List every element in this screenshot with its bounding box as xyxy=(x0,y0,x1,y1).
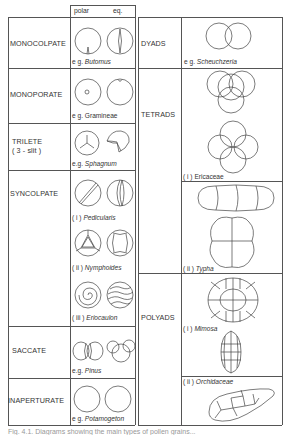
monoporate-eq-icon xyxy=(106,78,134,106)
example-nymphoides: ( ii ) Nymphoides xyxy=(72,264,122,271)
pedicularis-polar-icon xyxy=(74,179,102,207)
eriocaulon-eq-icon xyxy=(106,281,134,309)
example-dyads: e g. Scheuchzeria xyxy=(184,58,237,65)
figure-caption: Fig. 4.1. Diagrams showing the main type… xyxy=(8,428,196,435)
type-label-saccate: SACCATE xyxy=(12,346,46,355)
type-label-tetrads: TETRADS xyxy=(141,110,175,119)
inaperturate-polar-icon xyxy=(73,385,101,413)
example-monoporate: e g. Gramineae xyxy=(72,112,117,119)
type-label-trilete-sub: ( 3 - slit ) xyxy=(12,146,41,155)
saccate-polar-icon xyxy=(72,340,104,362)
mimosa-polyad-side-icon xyxy=(219,330,243,374)
example-mimosa: ( i ) Mimosa xyxy=(183,325,217,332)
ericaceae-tetrad-cross-icon xyxy=(207,119,259,175)
trilete-polar-icon xyxy=(74,130,100,156)
pedicularis-eq-icon xyxy=(106,179,134,207)
header-eq: eq. xyxy=(113,7,122,14)
example-eriocaulon: ( iii ) Eriocaulon xyxy=(72,314,117,321)
example-typha: ( ii ) Typha xyxy=(183,265,214,272)
type-label-dyads: DYADS xyxy=(141,39,166,48)
example-pedicularis: ( i ) Pedicularis xyxy=(72,214,116,221)
example-saccate: e.g. Pinus xyxy=(72,367,101,374)
dyad-icon xyxy=(205,22,253,50)
typha-linear-tetrad-icon xyxy=(196,184,276,212)
ericaceae-tetrad-tetrahedral-icon xyxy=(206,70,256,114)
header-polar: polar xyxy=(74,7,89,14)
monocolpate-polar-icon xyxy=(74,27,102,55)
example-inaperturate: e g. Potamogeton xyxy=(72,415,124,422)
type-label-inaperturate: INAPERTURATE xyxy=(8,396,64,405)
type-label-trilete: TRILETE xyxy=(12,137,42,146)
nymphoides-polar-icon xyxy=(74,229,102,257)
trilete-eq-icon xyxy=(104,129,132,155)
orchidaceae-pollinium-icon xyxy=(207,386,277,422)
example-orchidaceae: ( ii ) Orchidaceae xyxy=(183,378,233,385)
type-label-polyads: POLYADS xyxy=(141,313,175,322)
type-label-syncolpate: SYNCOLPATE xyxy=(10,189,58,198)
monocolpate-eq-icon xyxy=(106,27,134,55)
type-label-monoporate: MONOPORATE xyxy=(10,90,62,99)
typha-square-tetrad-icon xyxy=(206,215,258,271)
monoporate-polar-icon xyxy=(74,78,102,106)
example-trilete: e.g. Sphagnum xyxy=(72,160,117,167)
nymphoides-eq-icon xyxy=(106,229,134,257)
example-ericaceae: ( i ) Ericaceae xyxy=(183,173,224,180)
saccate-eq-icon xyxy=(106,336,136,364)
example-monocolpate: e g. Butomus xyxy=(72,58,111,65)
mimosa-polyad-polar-icon xyxy=(206,276,260,324)
inaperturate-eq-icon xyxy=(104,385,132,413)
type-label-monocolpate: MONOCOLPATE xyxy=(10,39,66,48)
eriocaulon-polar-icon xyxy=(74,281,102,309)
